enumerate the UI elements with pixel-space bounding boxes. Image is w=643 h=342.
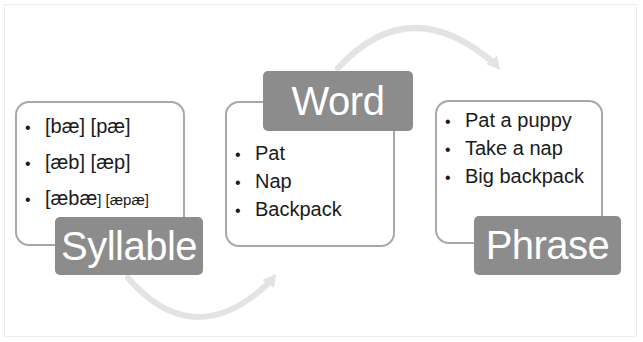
bullet: • xyxy=(25,114,45,141)
word-list: •Pat •Nap •Backpack xyxy=(235,140,342,224)
syllable-list: •[bæ] [pæ] •[æb] [æp] •[æbæ] [æpæ] xyxy=(25,113,149,213)
arrow-word-to-phrase xyxy=(338,28,500,70)
phrase-label: Phrase xyxy=(474,216,621,275)
list-item: •[æb] [æp] xyxy=(25,149,149,177)
syllable-label: Syllable xyxy=(55,217,203,275)
list-item: •[æbæ] [æpæ] xyxy=(25,185,149,213)
bullet: • xyxy=(235,169,255,196)
bullet: • xyxy=(235,197,255,224)
phrase-list: •Pat a puppy •Take a nap •Big backpack xyxy=(445,107,584,191)
word-label: Word xyxy=(263,71,413,131)
list-item: •Take a nap xyxy=(445,135,584,163)
list-item: •Pat xyxy=(235,140,342,168)
list-item: •Backpack xyxy=(235,196,342,224)
list-item: •Pat a puppy xyxy=(445,107,584,135)
bullet: • xyxy=(445,136,465,163)
bullet: • xyxy=(445,108,465,135)
bullet: • xyxy=(25,186,45,213)
bullet: • xyxy=(25,150,45,177)
arrow-syllable-to-word xyxy=(128,274,276,317)
list-item: •Big backpack xyxy=(445,163,584,191)
bullet: • xyxy=(445,164,465,191)
list-item: •[bæ] [pæ] xyxy=(25,113,149,141)
bullet: • xyxy=(235,141,255,168)
list-item: •Nap xyxy=(235,168,342,196)
